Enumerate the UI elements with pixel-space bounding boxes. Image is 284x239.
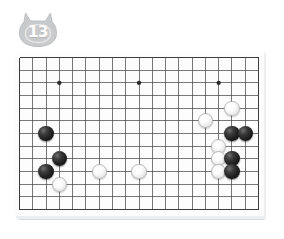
black-stone[interactable]	[38, 126, 53, 141]
white-stone[interactable]	[52, 177, 67, 192]
star-point	[137, 81, 141, 85]
black-stone[interactable]	[238, 126, 253, 141]
black-stone[interactable]	[224, 164, 239, 179]
go-problem-figure: 13	[0, 0, 284, 239]
problem-number-label: 13	[18, 10, 58, 48]
black-stone[interactable]	[38, 164, 53, 179]
white-stone[interactable]	[224, 101, 239, 116]
white-stone[interactable]	[92, 164, 107, 179]
star-point	[57, 81, 61, 85]
go-board[interactable]	[14, 51, 264, 216]
white-stone[interactable]	[131, 164, 146, 179]
star-point	[216, 81, 220, 85]
problem-number-badge: 13	[18, 10, 58, 48]
